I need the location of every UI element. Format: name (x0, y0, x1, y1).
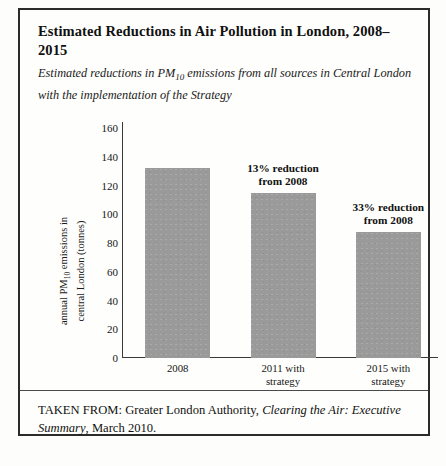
bar-annotation-line-1: 33% reduction (323, 201, 446, 215)
bar (356, 232, 421, 359)
bar (145, 168, 210, 358)
x-axis-tick-label-line: 2015 with (328, 362, 446, 375)
y-axis-tick-label: 140 (80, 151, 118, 163)
figure-frame: Estimated Reductions in Air Pollution in… (18, 8, 430, 436)
source-suffix: , March 2010. (86, 421, 157, 435)
bar-annotation-line-1: 13% reduction (218, 162, 348, 176)
x-axis-tick-label-line: strategy (328, 375, 446, 388)
source-prefix: TAKEN FROM: Greater London Authority, (38, 403, 262, 417)
figure-subtitle: Estimated reductions in PM10 emissions f… (38, 65, 413, 104)
figure-subtitle-text-pre: Estimated reductions in PM (38, 66, 175, 80)
y-axis-title-post: emissions in (58, 217, 69, 272)
y-axis-title-subscript: 10 (63, 272, 72, 280)
y-axis-tick-label: 80 (80, 237, 118, 249)
y-axis-tick-labels: 020406080100120140160 (80, 106, 118, 366)
y-axis-title-pre: annual PM (58, 279, 69, 325)
figure-title: Estimated Reductions in Air Pollution in… (38, 22, 398, 60)
y-axis-tick-label: 160 (80, 122, 118, 134)
figure-source: TAKEN FROM: Greater London Authority, Cl… (38, 401, 416, 437)
bar-annotation: 33% reductionfrom 2008 (323, 201, 446, 228)
x-axis-tick-label: 2008 (118, 362, 238, 375)
bar (251, 193, 316, 358)
y-axis-tick-label: 20 (80, 323, 118, 335)
x-axis-tick-label-line: strategy (223, 375, 343, 388)
y-axis-tick-label: 60 (80, 266, 118, 278)
x-axis-tick-label-line: 2011 with (223, 362, 343, 375)
y-axis-tick-label: 120 (80, 180, 118, 192)
x-axis-tick-label: 2011 withstrategy (223, 362, 343, 388)
x-axis-tick-label: 2015 withstrategy (328, 362, 446, 388)
x-axis-tick-label-line: 2008 (118, 362, 238, 375)
bar-annotation: 13% reductionfrom 2008 (218, 162, 348, 189)
y-axis-title-line-1: annual PM10 emissions in (57, 186, 74, 356)
bar-annotation-line-2: from 2008 (218, 175, 348, 189)
bar-annotation-line-2: from 2008 (323, 214, 446, 228)
footer-divider (20, 390, 428, 391)
figure-subtitle-subscript: 10 (175, 72, 184, 82)
y-axis-tick-label: 40 (80, 295, 118, 307)
y-axis-tick-label: 100 (80, 208, 118, 220)
y-axis-tick-label: 0 (80, 352, 118, 364)
figure-page: Estimated Reductions in Air Pollution in… (0, 0, 446, 466)
bar-chart: annual PM10 emissions in central London … (20, 106, 428, 392)
